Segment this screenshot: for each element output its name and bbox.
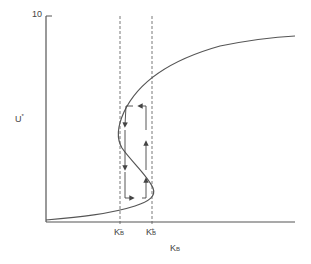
y-axis-label-sup: * <box>22 113 24 119</box>
hysteresis-up-arrow <box>142 180 146 198</box>
y-axis-label: U* <box>15 114 24 124</box>
x-axis-label-sub: B <box>176 246 180 252</box>
k-minus-label: KB− <box>114 227 123 237</box>
x-axis-label: KB <box>170 243 180 253</box>
hysteresis-bottom-arrow <box>125 172 132 198</box>
s-shaped-curve <box>46 36 295 220</box>
hysteresis-down-arrow <box>125 106 133 125</box>
k-plus-label: KB+ <box>146 227 155 237</box>
y-tick-label-10: 10 <box>32 9 42 19</box>
k-minus-sup: − <box>119 226 123 232</box>
bistability-diagram <box>0 0 311 264</box>
k-plus-sup: + <box>151 226 155 232</box>
y-axis-label-text: U <box>15 114 22 124</box>
hysteresis-top-arrow <box>140 106 146 130</box>
